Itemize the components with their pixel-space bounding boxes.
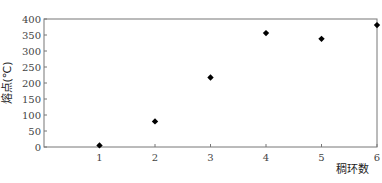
- x-tick-label: 6: [374, 152, 380, 163]
- data-point-diamond: [207, 74, 213, 80]
- y-tick-label: 100: [22, 110, 41, 121]
- data-point-diamond: [96, 142, 102, 148]
- x-tick-label: 4: [263, 152, 269, 163]
- data-point-diamond: [318, 36, 324, 42]
- data-point-diamond: [263, 30, 269, 36]
- y-axis-label: 熔点(℃): [0, 62, 14, 105]
- x-tick-label: 3: [207, 152, 213, 163]
- x-axis-label: 稠环数: [336, 162, 369, 176]
- plot-frame: [44, 19, 377, 147]
- y-tick-label: 400: [22, 14, 41, 25]
- x-tick-label: 2: [152, 152, 158, 163]
- y-tick-label: 150: [22, 94, 41, 105]
- y-axis-ticks: 050100150200250300350400: [22, 14, 47, 153]
- y-tick-label: 200: [22, 78, 41, 89]
- y-tick-label: 350: [22, 30, 41, 41]
- y-tick-label: 0: [35, 142, 41, 153]
- data-point-diamond: [152, 118, 158, 124]
- y-tick-label: 300: [22, 46, 41, 57]
- x-tick-label: 1: [96, 152, 102, 163]
- scatter-chart: 050100150200250300350400 123456 熔点(℃) 稠环…: [0, 0, 382, 183]
- x-tick-label: 5: [318, 152, 324, 163]
- data-points: [96, 22, 380, 149]
- data-point-diamond: [374, 22, 380, 28]
- y-tick-label: 250: [22, 62, 41, 73]
- y-tick-label: 50: [28, 126, 41, 137]
